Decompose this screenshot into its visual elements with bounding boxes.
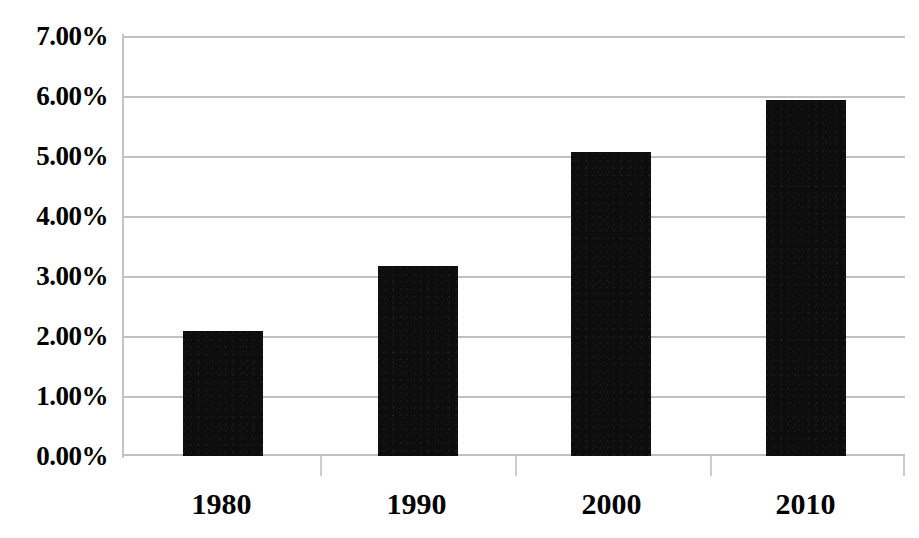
x-axis-ticks bbox=[124, 456, 905, 478]
y-tick-label-0: 0.00% bbox=[36, 443, 108, 470]
bars-layer bbox=[124, 36, 905, 456]
x-axis-label-2010: 2010 bbox=[708, 478, 903, 530]
x-axis-label-2000: 2000 bbox=[514, 478, 709, 530]
x-axis: 1980 1990 2000 2010 bbox=[124, 478, 905, 538]
y-tick-label-7: 7.00% bbox=[36, 23, 108, 50]
y-tick-label-2: 2.00% bbox=[36, 323, 108, 350]
y-tick-label-3: 3.00% bbox=[36, 263, 108, 290]
y-tick-label-6: 6.00% bbox=[36, 83, 108, 110]
bar-1990 bbox=[378, 266, 458, 456]
y-tick-label-5: 5.00% bbox=[36, 143, 108, 170]
bar-chart: 7.00% 6.00% 5.00% 4.00% 3.00% 2.00% 1.00… bbox=[0, 0, 919, 538]
x-axis-label-1980: 1980 bbox=[124, 478, 319, 530]
x-tick-divider-1 bbox=[320, 456, 322, 476]
bar-2000 bbox=[571, 152, 651, 456]
bar-1980 bbox=[183, 331, 263, 456]
x-tick-divider-2 bbox=[515, 456, 517, 476]
x-tick-divider-4 bbox=[903, 456, 905, 476]
x-tick-divider-3 bbox=[710, 456, 712, 476]
bar-2010 bbox=[766, 100, 846, 456]
plot-area bbox=[124, 36, 905, 456]
y-tick-label-4: 4.00% bbox=[36, 203, 108, 230]
y-axis: 7.00% 6.00% 5.00% 4.00% 3.00% 2.00% 1.00… bbox=[0, 0, 114, 538]
y-tick-label-1: 1.00% bbox=[36, 383, 108, 410]
x-axis-label-1990: 1990 bbox=[319, 478, 514, 530]
